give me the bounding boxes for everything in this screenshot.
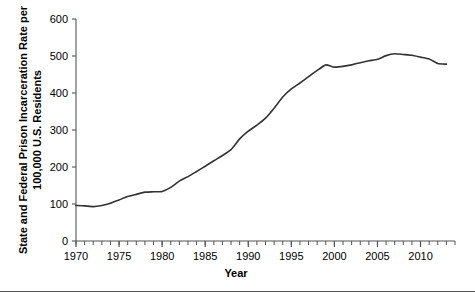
y-axis-tick-label: 100 xyxy=(50,198,68,210)
y-axis-tick-label: 400 xyxy=(50,87,68,99)
y-axis-tick-label: 0 xyxy=(62,235,68,247)
y-axis-title-line-2: 100,000 U.S. Residents xyxy=(31,70,43,190)
x-axis-tick-label: 1970 xyxy=(64,250,88,262)
y-axis-tick-label: 300 xyxy=(50,124,68,136)
chart-figure: 0100200300400500600 19701975198019851990… xyxy=(0,0,475,302)
y-axis-title-line-1: State and Federal Prison Incarceration R… xyxy=(17,5,29,254)
x-axis-tick-label: 2000 xyxy=(322,250,346,262)
x-axis-tick-label: 2005 xyxy=(365,250,389,262)
x-axis-title: Year xyxy=(224,267,248,279)
y-axis-tick-label: 200 xyxy=(50,161,68,173)
x-axis-tick-label: 1995 xyxy=(279,250,303,262)
x-axis-tick-label: 1990 xyxy=(236,250,260,262)
y-axis-tick-label: 600 xyxy=(50,13,68,25)
y-axis-tick-label: 500 xyxy=(50,50,68,62)
x-axis-tick-label: 1975 xyxy=(107,250,131,262)
incarceration-rate-line-chart: 0100200300400500600 19701975198019851990… xyxy=(0,0,475,302)
x-axis-tick-label: 1980 xyxy=(150,250,174,262)
footer-divider xyxy=(0,291,475,292)
x-axis-tick-label: 1985 xyxy=(193,250,217,262)
x-axis-tick-label: 2010 xyxy=(408,250,432,262)
x-axis-tick-labels: 197019751980198519901995200020052010 xyxy=(64,250,433,262)
